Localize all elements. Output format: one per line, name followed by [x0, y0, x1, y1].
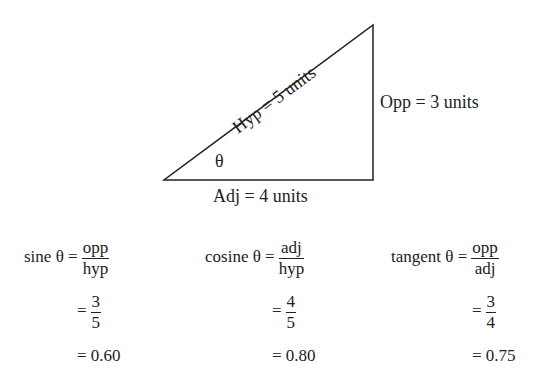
cosine-denominator: hyp: [279, 259, 305, 279]
sine-numerator: opp: [82, 238, 110, 259]
cosine-den-value: 5: [286, 313, 297, 333]
tangent-num-value: 3: [486, 292, 497, 313]
cosine-eq-sign: =: [272, 301, 282, 320]
tangent-numerator: opp: [471, 238, 499, 259]
sine-result: = 0.60: [77, 346, 121, 366]
sine-num-value: 3: [91, 292, 102, 313]
cosine-numerator: adj: [279, 238, 305, 259]
sine-eq-sign: =: [77, 301, 87, 320]
cosine-result: = 0.80: [272, 346, 316, 366]
sine-lhs: sine θ =: [24, 247, 78, 266]
right-triangle-diagram: Hyp = 5 units Opp = 3 units Adj = 4 unit…: [0, 0, 557, 220]
theta-label: θ: [215, 151, 224, 171]
hyp-label: Hyp = 5 units: [228, 62, 319, 137]
opp-label: Opp = 3 units: [380, 92, 479, 112]
adj-label: Adj = 4 units: [213, 186, 308, 206]
sine-den-value: 5: [91, 313, 102, 333]
cosine-num-value: 4: [286, 292, 297, 313]
tangent-lhs: tangent θ =: [391, 247, 467, 266]
tangent-denominator: adj: [471, 259, 499, 279]
tangent-eq-sign: =: [472, 301, 482, 320]
tangent-den-value: 4: [486, 313, 497, 333]
tangent-result: = 0.75: [472, 346, 516, 366]
sine-denominator: hyp: [82, 259, 110, 279]
cosine-lhs: cosine θ =: [205, 247, 275, 266]
